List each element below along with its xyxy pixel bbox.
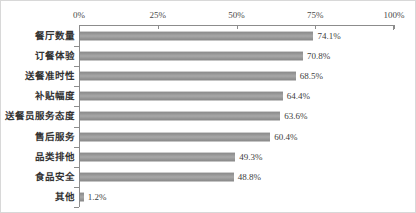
bar <box>80 132 270 141</box>
bar-row: 食品安全48.8% <box>1 167 416 187</box>
category-tick <box>74 66 79 67</box>
category-label: 品类排他 <box>35 151 75 162</box>
category-tick <box>74 106 79 107</box>
bar-row: 其他1.2% <box>1 187 416 207</box>
bar-value-label: 64.4% <box>287 91 310 101</box>
bar <box>80 72 296 81</box>
category-label: 订餐体验 <box>35 51 75 62</box>
bar-value-label: 48.8% <box>238 172 261 182</box>
category-label: 售后服务 <box>35 131 75 142</box>
bar-value-label: 74.1% <box>317 31 340 41</box>
bar-row: 餐厅数量74.1% <box>1 26 416 46</box>
category-label: 食品安全 <box>35 171 75 182</box>
bar-value-label: 1.2% <box>88 192 107 202</box>
axis-tick-label-0: 0% <box>73 10 85 20</box>
bar-row: 订餐体验70.8% <box>1 46 416 66</box>
category-tick <box>74 46 79 47</box>
bar <box>80 92 283 101</box>
category-label: 餐厅数量 <box>35 31 75 42</box>
bar-chart-figure: 0% 25% 50% 75% 100% 餐厅数量74.1%订餐体验70.8%送餐… <box>0 0 416 213</box>
category-label: 送餐准时性 <box>25 71 75 82</box>
bar <box>80 152 235 161</box>
bar-row: 送餐准时性68.5% <box>1 66 416 86</box>
category-label: 补贴幅度 <box>35 91 75 102</box>
axis-tick-label-3: 75% <box>307 10 324 20</box>
axis-tick-label-2: 50% <box>228 10 245 20</box>
axis-tick-label-4: 100% <box>384 10 405 20</box>
bar-row: 送餐员服务态度63.6% <box>1 106 416 126</box>
category-tick <box>74 207 79 208</box>
category-tick <box>74 167 79 168</box>
bar-row: 售后服务60.4% <box>1 127 416 147</box>
bar-value-label: 60.4% <box>274 132 297 142</box>
bar-row: 补贴幅度64.4% <box>1 86 416 106</box>
bar <box>80 172 234 181</box>
category-tick <box>74 127 79 128</box>
bar-value-label: 68.5% <box>300 71 323 81</box>
category-tick <box>74 86 79 87</box>
category-label: 其他 <box>55 191 75 202</box>
bar <box>80 52 303 61</box>
bar-row: 品类排他49.3% <box>1 147 416 167</box>
category-label: 送餐员服务态度 <box>5 111 75 122</box>
category-tick <box>74 147 79 148</box>
bar <box>80 112 280 121</box>
category-tick <box>74 187 79 188</box>
bar-value-label: 63.6% <box>284 111 307 121</box>
bar <box>80 192 84 201</box>
bar-value-label: 70.8% <box>307 51 330 61</box>
bar <box>80 32 313 41</box>
bar-value-label: 49.3% <box>239 152 262 162</box>
axis-tick-label-1: 25% <box>150 10 167 20</box>
